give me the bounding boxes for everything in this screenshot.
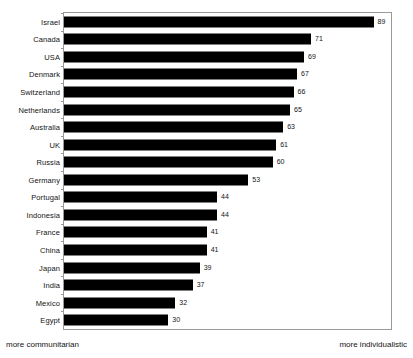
bar-value-label: 41 [211, 246, 219, 254]
bar-value-label: 67 [301, 70, 309, 78]
axis-tick-mark [61, 276, 64, 277]
bar-row: Israel89 [64, 13, 391, 31]
bar-row: UK61 [64, 136, 391, 154]
bar [64, 297, 175, 308]
bar [64, 244, 207, 255]
bar-value-label: 30 [172, 316, 180, 324]
category-label: Denmark [29, 70, 60, 79]
axis-tick-mark [61, 66, 64, 67]
bar-row: Denmark67 [64, 66, 391, 84]
bar [64, 192, 217, 203]
bar-value-label: 44 [221, 193, 229, 201]
bar-row: Egypt30 [64, 311, 391, 329]
category-label: USA [44, 52, 60, 61]
bar [64, 209, 217, 220]
axis-tick-mark [61, 311, 64, 312]
bar-row: Australia63 [64, 118, 391, 136]
bar-value-label: 60 [277, 158, 285, 166]
axis-tick-mark [61, 136, 64, 137]
axis-tick-mark [61, 171, 64, 172]
axis-tick-mark [61, 224, 64, 225]
bar [64, 139, 276, 150]
axis-tick-mark [61, 48, 64, 49]
axis-tick-mark [61, 259, 64, 260]
axis-tick-mark [61, 294, 64, 295]
bar-row: Germany53 [64, 171, 391, 189]
bar-row: USA69 [64, 48, 391, 66]
bar-value-label: 63 [287, 123, 295, 131]
axis-note-individualistic: more individualistic [339, 340, 407, 350]
category-label: Canada [33, 35, 60, 44]
category-label: Netherlands [18, 105, 60, 114]
axis-tick-mark [61, 31, 64, 32]
bar [64, 315, 168, 326]
axis-tick-mark [61, 83, 64, 84]
bar-row: Switzerland66 [64, 83, 391, 101]
bar-row: China41 [64, 241, 391, 259]
bar [64, 122, 283, 133]
category-label: UK [49, 140, 60, 149]
bar-row: France41 [64, 224, 391, 242]
bar-row: Japan39 [64, 259, 391, 277]
bar-value-label: 61 [280, 141, 288, 149]
bar [64, 51, 304, 62]
category-label: China [40, 245, 60, 254]
bar-rows: Israel89Canada71USA69Denmark67Switzerlan… [64, 13, 391, 329]
bar-value-label: 44 [221, 211, 229, 219]
axis-tick-mark [61, 118, 64, 119]
bar-row: Indonesia44 [64, 206, 391, 224]
axis-tick-mark [61, 189, 64, 190]
bar [64, 280, 193, 291]
bar-row: India37 [64, 276, 391, 294]
axis-note-communitarian: more communitarian [6, 340, 79, 350]
bar-row: Mexico32 [64, 294, 391, 312]
axis-tick-mark [61, 101, 64, 102]
bar-row: Portugal44 [64, 189, 391, 207]
category-label: India [43, 281, 60, 290]
category-label: Portugal [31, 193, 60, 202]
bar-value-label: 65 [294, 106, 302, 114]
bar-value-label: 41 [211, 228, 219, 236]
category-label: France [36, 228, 60, 237]
bar-row: Canada71 [64, 31, 391, 49]
bar [64, 262, 200, 273]
category-label: Israel [41, 17, 60, 26]
chart-figure: Israel89Canada71USA69Denmark67Switzerlan… [0, 0, 413, 358]
category-label: Switzerland [20, 87, 60, 96]
bar-value-label: 37 [197, 281, 205, 289]
plot-area: Israel89Canada71USA69Denmark67Switzerlan… [63, 12, 392, 330]
bar-value-label: 53 [252, 176, 260, 184]
bar-value-label: 39 [204, 264, 212, 272]
category-label: Germany [28, 175, 60, 184]
bar [64, 104, 290, 115]
bar [64, 157, 273, 168]
axis-tick-mark [61, 153, 64, 154]
bar-row: Russia60 [64, 153, 391, 171]
axis-tick-mark [61, 13, 64, 14]
bar-value-label: 66 [298, 88, 306, 96]
bar-value-label: 89 [378, 18, 386, 26]
category-label: Indonesia [27, 210, 60, 219]
category-label: Australia [30, 123, 60, 132]
bar-row: Netherlands65 [64, 101, 391, 119]
category-label: Japan [39, 263, 60, 272]
bar [64, 34, 311, 45]
category-label: Mexico [36, 298, 60, 307]
bar-value-label: 69 [308, 53, 316, 61]
bar-value-label: 32 [179, 299, 187, 307]
axis-tick-mark [61, 241, 64, 242]
bar [64, 16, 374, 27]
bar [64, 174, 248, 185]
axis-tick-mark [61, 206, 64, 207]
category-label: Russia [36, 158, 60, 167]
bar-value-label: 71 [315, 35, 323, 43]
bar [64, 227, 207, 238]
bar [64, 69, 297, 80]
category-label: Egypt [40, 316, 60, 325]
bar [64, 86, 294, 97]
